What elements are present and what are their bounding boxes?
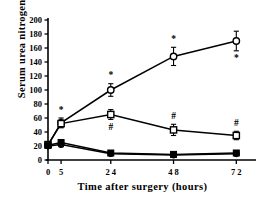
x-tick-label: 2 4: [105, 167, 116, 177]
significance-annotation: *: [59, 105, 64, 115]
y-tick-label: 140: [29, 57, 42, 67]
marker-filled-circle: [233, 151, 239, 157]
y-tick-label: 60: [34, 113, 43, 123]
x-axis-label: Time after surgery (hours): [30, 181, 255, 192]
series-line-open-square: [48, 115, 236, 145]
y-tick-label: 0: [38, 155, 42, 165]
marker-open-square: [170, 127, 176, 133]
marker-open-circle: [108, 87, 114, 93]
chart-plot-area: 020406080100120140160180200052 44 87 2**…: [0, 0, 260, 202]
marker-filled-circle: [58, 142, 64, 148]
marker-filled-circle: [45, 143, 51, 149]
y-tick-label: 100: [29, 85, 42, 95]
y-tick-label: 200: [29, 15, 42, 25]
significance-annotation: #: [234, 118, 239, 128]
figure: Serum urea nitrogen (mg/dl) 020406080100…: [0, 0, 260, 202]
marker-filled-circle: [108, 151, 114, 157]
x-tick-label: 5: [59, 167, 63, 177]
x-tick-label: 7 2: [231, 167, 242, 177]
x-tick-label: 4 8: [168, 167, 179, 177]
series-line-filled-square: [48, 143, 236, 155]
x-tick-label: 0: [46, 167, 50, 177]
series-line-open-circle: [48, 41, 236, 145]
marker-open-circle: [170, 53, 176, 59]
marker-open-square: [233, 132, 239, 138]
marker-filled-circle: [171, 152, 177, 158]
y-tick-label: 120: [29, 71, 42, 81]
y-tick-label: 180: [29, 29, 42, 39]
marker-open-square: [58, 121, 64, 127]
y-tick-label: 80: [34, 99, 43, 109]
significance-annotation: *: [171, 34, 176, 44]
significance-annotation: #: [108, 122, 113, 132]
marker-open-square: [108, 111, 114, 117]
significance-annotation: *: [234, 53, 239, 63]
marker-open-circle: [233, 38, 239, 44]
y-tick-label: 40: [34, 127, 43, 137]
significance-annotation: *: [108, 70, 113, 80]
y-tick-label: 20: [34, 141, 43, 151]
significance-annotation: #: [171, 111, 176, 121]
y-tick-label: 160: [29, 43, 42, 53]
